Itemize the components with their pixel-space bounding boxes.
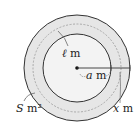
a-label: a m (86, 69, 107, 82)
concentric-circles-diagram: ℓ m a m S m² x m (0, 0, 140, 125)
ell-label: ℓ m (62, 47, 81, 60)
s-label: S m² (16, 102, 42, 115)
x-label: x m (113, 102, 134, 115)
